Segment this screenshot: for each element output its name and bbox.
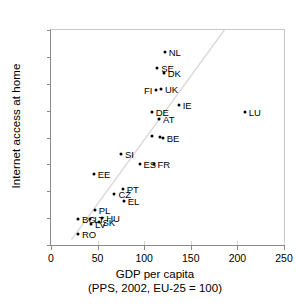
data-point-label: UK: [165, 84, 178, 95]
data-point: [150, 135, 153, 138]
y-tick-mark: [47, 30, 51, 31]
x-tick-mark: [51, 245, 52, 250]
x-tick-label: 200: [217, 252, 257, 264]
x-grid-tick: [237, 241, 238, 245]
x-tick-label: 0: [31, 252, 71, 264]
x-tick-mark: [237, 245, 238, 250]
x-tick-label: 50: [78, 252, 118, 264]
data-point: [150, 110, 153, 113]
plot-inner: 01020304050607080 050100150200250 NLSEDK…: [51, 30, 284, 245]
x-tick-mark: [98, 245, 99, 250]
data-point: [163, 50, 166, 53]
data-point-label: SK: [103, 217, 115, 228]
y-tick-mark: [47, 84, 51, 85]
data-point-label: EL: [128, 195, 139, 206]
data-point: [138, 163, 141, 166]
x-tick-label: 100: [124, 252, 164, 264]
x-grid-tick: [191, 241, 192, 245]
x-tick-mark: [191, 245, 192, 250]
data-point: [119, 152, 122, 155]
y-axis-title: Internet access at home: [10, 46, 22, 206]
data-point-label: NL: [169, 46, 181, 57]
data-point-label: LU: [249, 106, 261, 117]
data-point: [77, 218, 80, 221]
data-point: [159, 88, 162, 91]
data-point-label: FI: [144, 85, 152, 96]
y-tick-mark: [47, 164, 51, 165]
x-axis-title: GDP per capita (PPS, 2002, EU-25 = 100): [40, 268, 270, 295]
y-tick-mark: [47, 191, 51, 192]
scatter-chart: Internet access at home 0102030405060708…: [0, 0, 296, 308]
data-point: [93, 209, 96, 212]
data-point: [162, 72, 165, 75]
x-grid-tick: [98, 241, 99, 245]
data-point: [243, 110, 246, 113]
data-point-label: DK: [168, 68, 181, 79]
data-point: [155, 89, 158, 92]
data-point: [77, 233, 80, 236]
plot-area: 01020304050607080 050100150200250 NLSEDK…: [50, 29, 285, 246]
data-point: [122, 199, 125, 202]
data-point: [113, 192, 116, 195]
x-tick-mark: [144, 245, 145, 250]
y-tick-mark: [47, 138, 51, 139]
data-point-label: SI: [125, 148, 134, 159]
data-point-label: IE: [183, 100, 192, 111]
x-axis-title-line1: GDP per capita: [116, 268, 194, 280]
data-point: [89, 218, 92, 221]
data-point: [161, 136, 164, 139]
x-grid-tick: [144, 241, 145, 245]
data-point: [97, 221, 100, 224]
y-tick-mark: [47, 218, 51, 219]
data-point: [90, 222, 93, 225]
y-tick-mark: [47, 57, 51, 58]
x-axis-title-line2: (PPS, 2002, EU-25 = 100): [40, 282, 270, 296]
y-tick-mark: [47, 111, 51, 112]
data-point: [152, 163, 155, 166]
data-point-label: BE: [167, 132, 179, 143]
data-point-label: RO: [82, 229, 96, 240]
x-tick-label: 250: [264, 252, 296, 264]
x-grid-tick: [284, 241, 285, 245]
data-point: [156, 66, 159, 69]
x-tick-mark: [284, 245, 285, 250]
data-point-label: FR: [158, 159, 170, 170]
data-point: [158, 117, 161, 120]
data-point: [92, 172, 95, 175]
data-point: [177, 104, 180, 107]
x-tick-label: 150: [171, 252, 211, 264]
data-point-label: AT: [163, 113, 174, 124]
data-point-label: EE: [98, 168, 110, 179]
